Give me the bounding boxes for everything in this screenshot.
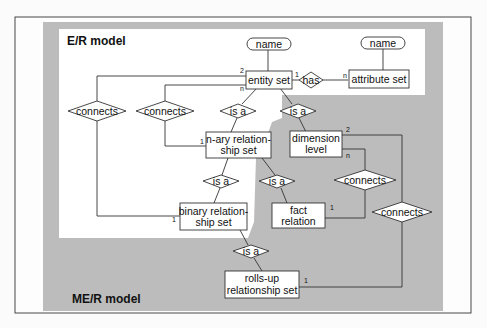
card-entity-has-1: 1 (295, 71, 299, 78)
dimension-level-box: dimension level (290, 131, 342, 157)
svg-text:is a: is a (269, 175, 286, 187)
svg-text:connects: connects (381, 206, 423, 218)
card-entity-2: 2 (240, 67, 244, 74)
card-dim-n: n (346, 152, 350, 159)
binary-relationship-set-box: binary relation- ship set (179, 203, 249, 230)
card-dim-2: 2 (346, 126, 350, 133)
svg-text:connects: connects (76, 105, 118, 117)
svg-text:rolls-up: rolls-up (245, 272, 280, 284)
svg-text:relation: relation (281, 215, 316, 227)
svg-text:ship set: ship set (220, 144, 256, 156)
card-entity-n: n (240, 85, 244, 92)
svg-text:is a: is a (213, 175, 230, 187)
nary-relationship-set-box: n-ary relation- ship set (206, 132, 271, 158)
attribute-name-2: name (361, 37, 405, 50)
svg-text:is a: is a (243, 245, 260, 257)
attribute-set-box: attribute set (349, 70, 409, 88)
svg-text:name: name (256, 38, 282, 50)
svg-text:is a: is a (290, 105, 307, 117)
svg-text:level: level (305, 143, 327, 155)
card-binary-1: 1 (172, 216, 176, 223)
svg-text:connects: connects (144, 105, 186, 117)
svg-text:entity set: entity set (248, 74, 290, 86)
card-rollsup-1: 1 (304, 277, 308, 284)
attribute-name-1: name (247, 38, 291, 51)
svg-text:connects: connects (344, 174, 386, 186)
er-model-label: E/R model (67, 34, 126, 48)
card-nary-1: 1 (200, 138, 204, 145)
rolls-up-relationship-set-box: rolls-up relationship set (225, 271, 299, 298)
svg-text:relationship set: relationship set (227, 284, 298, 296)
svg-text:attribute set: attribute set (352, 73, 407, 85)
card-attr-n: n (343, 72, 347, 79)
mer-model-label: ME/R model (72, 292, 141, 306)
er-mer-diagram: E/R model ME/R model name name (0, 0, 487, 328)
svg-text:is a: is a (230, 105, 247, 117)
svg-text:has: has (303, 74, 320, 86)
svg-text:ship set: ship set (195, 216, 231, 228)
card-fact-1: 1 (330, 204, 334, 211)
entity-set-box: entity set (246, 71, 292, 89)
svg-text:name: name (370, 37, 396, 49)
fact-relation-box: fact relation (272, 203, 325, 228)
